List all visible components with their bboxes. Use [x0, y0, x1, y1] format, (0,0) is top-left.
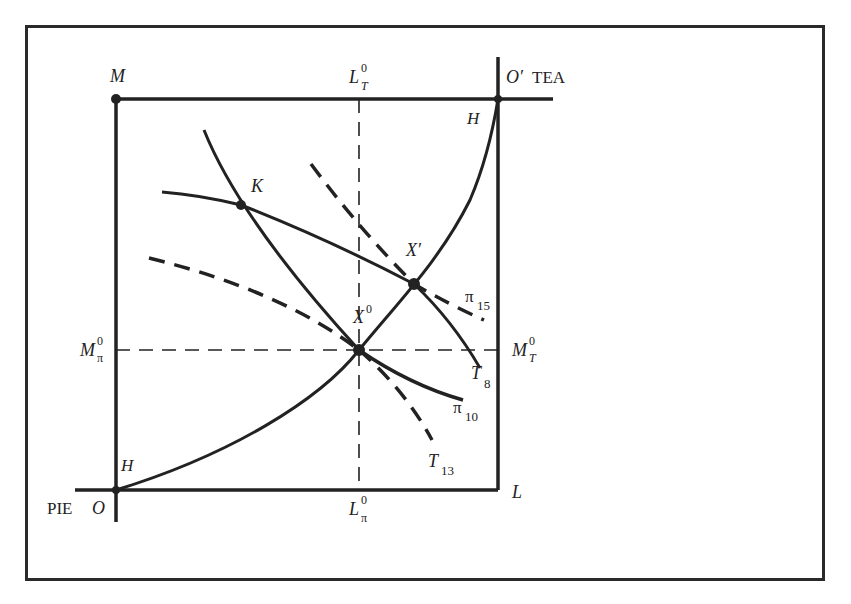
svg-text:13: 13 — [441, 463, 454, 478]
point-Xprime-dot — [408, 278, 420, 290]
label-pi15: π 15 — [465, 287, 490, 313]
svg-text:L: L — [348, 499, 359, 519]
label-O: O — [92, 498, 105, 518]
svg-text:L: L — [348, 67, 359, 87]
point-M-dot — [111, 94, 121, 104]
origin-O-dot — [112, 486, 120, 494]
svg-text:T: T — [529, 351, 537, 365]
svg-text:8: 8 — [484, 376, 491, 391]
isoprofit-pi15 — [311, 164, 484, 320]
isoprofit-pi10 — [359, 350, 463, 400]
edgeworth-box-diagram: M L 0 T O′ TEA H K X′ π 15 X 0 M 0 π M 0… — [0, 0, 851, 604]
svg-text:T: T — [428, 451, 440, 471]
origin-Oprime-dot — [494, 95, 502, 103]
label-T8: T 8 — [471, 363, 491, 391]
label-Oprime: O′ — [506, 67, 524, 87]
svg-text:0: 0 — [97, 334, 103, 348]
label-TEA: TEA — [532, 68, 566, 87]
label-H-upper: H — [466, 109, 481, 128]
svg-text:10: 10 — [465, 409, 478, 424]
label-M-pi0: M 0 π — [79, 334, 103, 365]
svg-text:0: 0 — [361, 61, 367, 75]
svg-text:T: T — [361, 79, 369, 93]
isoprofit-dashed-left — [149, 258, 359, 350]
svg-text:π: π — [97, 351, 103, 365]
svg-text:0: 0 — [366, 302, 372, 316]
isoquant-T8-mid — [241, 205, 414, 284]
label-pi10: π 10 — [453, 398, 478, 424]
svg-text:M: M — [511, 340, 528, 360]
label-Xprime: X′ — [405, 240, 422, 260]
label-H-lower: H — [120, 456, 135, 475]
svg-text:15: 15 — [477, 298, 490, 313]
svg-text:0: 0 — [529, 334, 535, 348]
label-L-pi0: L 0 π — [348, 493, 367, 525]
contract-curve-H — [116, 99, 498, 490]
label-M-T0: M 0 T — [511, 334, 537, 365]
point-K-dot — [236, 200, 246, 210]
label-X0: X 0 — [352, 302, 372, 327]
label-PIE: PIE — [47, 499, 73, 518]
svg-text:π: π — [361, 511, 367, 525]
svg-text:X: X — [352, 307, 365, 327]
label-M: M — [109, 66, 126, 86]
label-K: K — [250, 176, 264, 196]
svg-text:T: T — [471, 363, 483, 383]
svg-text:π: π — [453, 398, 462, 417]
label-L: L — [511, 482, 522, 502]
point-X0-dot — [353, 344, 365, 356]
label-T13: T 13 — [428, 451, 454, 478]
label-L-T0: L 0 T — [348, 61, 369, 93]
isoquant-T13 — [359, 350, 432, 440]
svg-text:M: M — [79, 340, 96, 360]
svg-text:0: 0 — [361, 493, 367, 507]
svg-text:π: π — [465, 287, 474, 306]
